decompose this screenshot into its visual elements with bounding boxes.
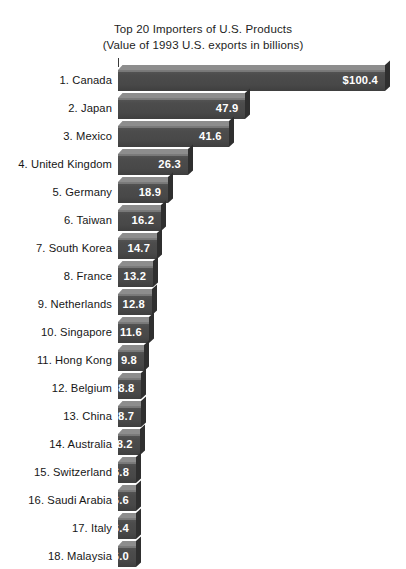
bar-category-label: 2. Japan [0,94,112,122]
bar-row: 12. Belgium8.8 [0,374,406,402]
bar-category-label: 15. Switzerland [0,458,112,486]
bar-side-face [141,368,146,399]
bar-row: 10. Singapore11.6 [0,318,406,346]
bar-category-label: 9. Netherlands [0,290,112,318]
chart-page: Top 20 Importers of U.S. Products (Value… [0,0,406,569]
bar-side-face [144,340,149,371]
bar-value-label: 26.3 [158,154,181,175]
bar-category-label: 13. China [0,402,112,430]
bar-row: 8. France13.2 [0,262,406,290]
bar-row: 17. Italy6.4 [0,514,406,542]
bar-side-face [168,172,173,203]
bar-value-label: 6.0 [113,546,129,567]
bar-side-face [157,228,162,259]
bar-row: 18. Malaysia6.0 [0,542,406,569]
bar-category-label: 17. Italy [0,514,112,542]
bar: 16.2 [118,210,161,231]
bar-side-face [136,480,141,511]
bar-category-label: 4. United Kingdom [0,150,112,178]
bar-category-label: 16. Saudi Arabia [0,486,112,514]
bar-side-face [141,396,146,427]
bar-category-label: 14. Australia [0,430,112,458]
bar: 6.8 [118,462,136,483]
bar-row: 15. Switzerland6.8 [0,458,406,486]
bar-value-label: 9.8 [121,350,137,371]
bar-row: 9. Netherlands12.8 [0,290,406,318]
bar: 6.6 [118,490,136,511]
bar-row: 4. United Kingdom26.3 [0,150,406,178]
bar-category-label: 8. France [0,262,112,290]
bar: 12.8 [118,294,152,315]
bar: 8.2 [118,434,140,455]
bar-row: 6. Taiwan16.2 [0,206,406,234]
bar-side-face [153,256,158,287]
bar-value-label: $100.4 [343,70,378,91]
bar-value-label: 6.4 [113,518,129,539]
bar-value-label: 41.6 [199,126,222,147]
bar-row: 11. Hong Kong9.8 [0,346,406,374]
bar: 11.6 [118,322,149,343]
bar-category-label: 18. Malaysia [0,542,112,569]
bar-side-face [245,88,250,119]
bar-value-label: 8.8 [118,378,134,399]
bar-row: 2. Japan47.9 [0,94,406,122]
bar-category-label: 6. Taiwan [0,206,112,234]
bar-value-label: 8.2 [117,434,133,455]
bar-value-label: 11.6 [120,322,142,343]
bar: 47.9 [118,98,245,119]
bar-row: 3. Mexico41.6 [0,122,406,150]
bar-row: 1. Canada$100.4 [0,66,406,94]
bar: 26.3 [118,154,188,175]
bar: 8.8 [118,378,141,399]
bar: 18.9 [118,182,168,203]
bar-row: 7. South Korea14.7 [0,234,406,262]
bar-value-label: 47.9 [216,98,239,119]
bar-category-label: 10. Singapore [0,318,112,346]
bar-side-face [136,536,141,567]
bar: 13.2 [118,266,153,287]
bar-side-face [149,312,154,343]
bar-side-face [136,508,141,539]
bar-category-label: 5. Germany [0,178,112,206]
bar-side-face [385,60,390,91]
bar-category-label: 12. Belgium [0,374,112,402]
bar-category-label: 3. Mexico [0,122,112,150]
bar-chart-plot-area: 1. Canada$100.42. Japan47.93. Mexico41.6… [0,0,406,569]
bar-side-face [140,424,145,455]
bar-row: 13. China8.7 [0,402,406,430]
bar-side-face [136,452,141,483]
bar-top-face [118,149,192,154]
bar-side-face [229,116,234,147]
bar-side-face [188,144,193,175]
bar-side-face [152,284,157,315]
bar-value-label: 12.8 [122,294,145,315]
bar: 41.6 [118,126,229,147]
bar-value-label: 16.2 [132,210,155,231]
bar-value-label: 14.7 [128,238,151,259]
bar: 9.8 [118,350,144,371]
bar: 8.7 [118,406,141,427]
bar-category-label: 7. South Korea [0,234,112,262]
bar-category-label: 1. Canada [0,66,112,94]
bar-value-label: 8.7 [118,406,134,427]
bar-side-face [161,200,166,231]
bar-value-label: 13.2 [124,266,147,287]
bar: 14.7 [118,238,157,259]
bar: 6.4 [118,518,136,539]
bar: $100.4 [118,70,385,91]
bar-value-label: 18.9 [139,182,162,203]
bar-category-label: 11. Hong Kong [0,346,112,374]
bar-row: 5. Germany18.9 [0,178,406,206]
bar-row: 14. Australia8.2 [0,430,406,458]
bar-value-label: 6.8 [113,462,129,483]
bar: 6.0 [118,546,136,567]
bar-value-label: 6.6 [113,490,129,511]
bar-row: 16. Saudi Arabia6.6 [0,486,406,514]
